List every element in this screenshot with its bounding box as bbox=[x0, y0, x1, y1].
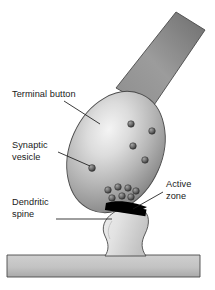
label-synaptic-vesicle-line1: Synaptic bbox=[12, 140, 48, 150]
vesicle bbox=[105, 187, 112, 194]
dendrite-shaft bbox=[7, 255, 200, 277]
vesicle bbox=[149, 128, 156, 135]
vesicle bbox=[133, 188, 140, 195]
label-synaptic-vesicle-line2: vesicle bbox=[12, 152, 40, 162]
label-terminal-button: Terminal button bbox=[12, 89, 76, 99]
label-synaptic-vesicle: Synaptic vesicle bbox=[12, 140, 50, 162]
vesicle bbox=[128, 194, 135, 201]
vesicle bbox=[125, 185, 132, 192]
synapse-diagram: Terminal button Synaptic vesicle Dendrit… bbox=[0, 0, 215, 290]
label-dendritic-spine-line1: Dendritic bbox=[12, 197, 49, 207]
label-dendritic-spine-line2: spine bbox=[12, 209, 34, 219]
vesicle bbox=[128, 121, 135, 128]
vesicle bbox=[130, 143, 137, 150]
diagram-canvas: Terminal button Synaptic vesicle Dendrit… bbox=[0, 0, 215, 290]
vesicle bbox=[142, 157, 149, 164]
vesicle bbox=[115, 184, 122, 191]
vesicle bbox=[109, 195, 116, 202]
label-active-zone-line2: zone bbox=[166, 191, 186, 201]
label-dendritic-spine: Dendritic spine bbox=[12, 197, 51, 219]
label-active-zone: Active zone bbox=[166, 179, 194, 201]
label-active-zone-line1: Active bbox=[166, 179, 191, 189]
vesicle bbox=[119, 193, 126, 200]
